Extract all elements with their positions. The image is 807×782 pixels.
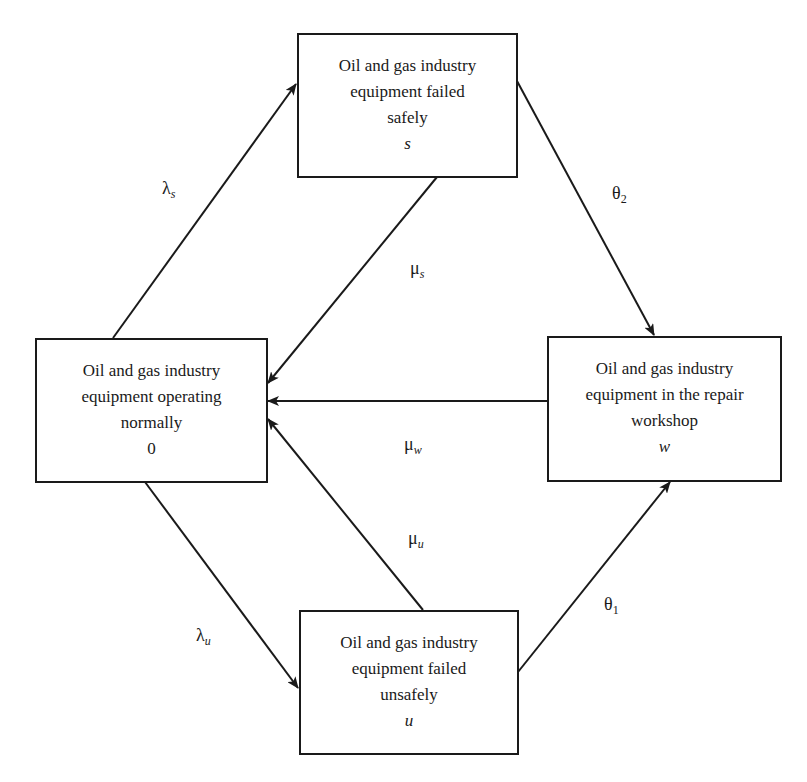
state-symbol: u — [405, 708, 414, 734]
rate-label-lambda-u: λu — [196, 625, 211, 651]
state-label-line: Oil and gas industry — [83, 358, 220, 384]
rate-label-theta-2: θ2 — [612, 183, 627, 209]
state-label-line: Oil and gas industry — [596, 356, 733, 382]
state-repair-workshop: Oil and gas industry equipment in the re… — [547, 336, 782, 482]
arrow-0-to-u — [145, 482, 298, 688]
state-label-line: normally — [121, 410, 182, 436]
rate-label-theta-1: θ1 — [604, 594, 619, 620]
state-label-line: Oil and gas industry — [340, 630, 477, 656]
state-label-line: workshop — [631, 408, 698, 434]
arrow-u-to-w — [518, 482, 670, 672]
state-label-line: safely — [387, 105, 428, 131]
arrow-s-to-w — [517, 81, 654, 335]
state-label-line: unsafely — [380, 682, 438, 708]
state-failed-unsafely: Oil and gas industry equipment failed un… — [299, 610, 519, 755]
state-operating-normally: Oil and gas industry equipment operating… — [35, 338, 268, 483]
state-label-line: equipment failed — [352, 656, 467, 682]
state-label-line: Oil and gas industry — [339, 53, 476, 79]
rate-label-mu-u: μu — [408, 528, 424, 554]
state-failed-safely: Oil and gas industry equipment failed sa… — [297, 33, 518, 178]
rate-label-lambda-s: λs — [162, 178, 175, 204]
arrow-u-to-0 — [268, 419, 423, 610]
state-label-line: equipment operating — [81, 384, 221, 410]
state-symbol: 0 — [147, 436, 156, 462]
state-label-line: equipment failed — [350, 79, 465, 105]
arrow-0-to-s — [113, 84, 296, 338]
state-symbol: w — [659, 434, 670, 460]
state-symbol: s — [404, 131, 411, 157]
state-label-line: equipment in the repair — [585, 382, 743, 408]
rate-label-mu-s: μs — [410, 258, 424, 284]
rate-label-mu-w: μw — [404, 434, 422, 460]
